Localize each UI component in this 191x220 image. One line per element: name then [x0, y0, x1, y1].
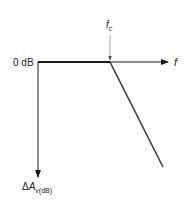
zero-db-label: 0 dB: [13, 57, 34, 68]
rolloff-slope-line: [110, 62, 163, 167]
frequency-axis-label: f: [174, 56, 178, 68]
bode-plot-diagram: 0 dB f fc ΔAv(dB): [0, 0, 191, 220]
corner-frequency-label: fc: [106, 19, 113, 32]
gain-axis-label: ΔAv(dB): [22, 181, 52, 195]
